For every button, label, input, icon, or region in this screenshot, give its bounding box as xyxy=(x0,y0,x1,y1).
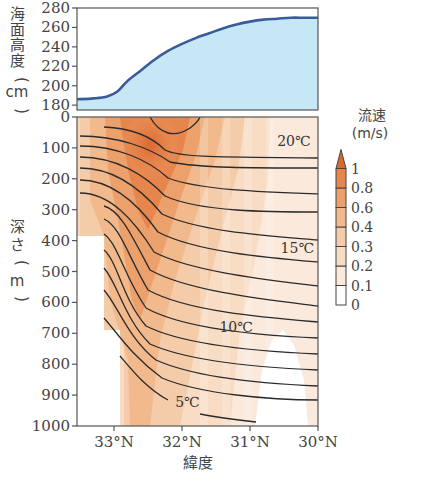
colorbar-segment xyxy=(336,208,346,228)
svg-text:cm: cm xyxy=(6,83,29,101)
colorbar-level-label: 0.3 xyxy=(351,239,373,255)
svg-text:): ) xyxy=(13,296,31,302)
y-tick-label: 260 xyxy=(41,18,70,36)
isotherm-label: 15℃ xyxy=(281,240,314,256)
latitude-axis-title: 緯度 xyxy=(183,454,213,472)
top-y-axis: 180200220240260280 xyxy=(41,0,77,114)
isotherm-label: 5℃ xyxy=(175,394,200,410)
svg-text:): ) xyxy=(13,108,31,114)
kuroshio-figure: 180200220240260280 海面高度(cm) xyxy=(0,0,429,478)
colorbar-level-label: 0.2 xyxy=(351,258,373,274)
svg-text:度: 度 xyxy=(10,52,25,70)
depth-tick-label: 600 xyxy=(41,293,70,311)
colorbar-level-label: 1 xyxy=(351,161,360,177)
colorbar-level-label: 0.4 xyxy=(351,219,373,235)
colorbar-segment xyxy=(336,227,346,247)
y-tick-label: 220 xyxy=(41,57,70,75)
velocity-colorbar: 流速 (m/s) 00.10.20.30.40.60.81 xyxy=(336,107,388,313)
velocity-section-panel: 20℃15℃10℃5℃ 0100200300400500600700800900… xyxy=(10,108,338,472)
depth-tick-label: 500 xyxy=(41,263,70,281)
colorbar-level-label: 0 xyxy=(351,297,360,313)
y-tick-label: 240 xyxy=(41,38,70,56)
svg-text:深: 深 xyxy=(10,218,25,236)
colorbar-segment xyxy=(336,188,346,208)
latitude-tick-label: 32°N xyxy=(162,433,202,451)
depth-tick-label: 800 xyxy=(41,355,70,373)
depth-tick-label: 200 xyxy=(41,170,70,188)
svg-text:(: ( xyxy=(13,260,31,266)
colorbar-level-label: 0.8 xyxy=(351,180,373,196)
depth-axis: 01002003004005006007008009001000 xyxy=(32,108,77,435)
latitude-tick-label: 30°N xyxy=(298,433,338,451)
depth-tick-label: 300 xyxy=(41,201,70,219)
isotherm-label: 20℃ xyxy=(277,133,310,149)
latitude-tick-label: 33°N xyxy=(94,433,134,451)
latitude-tick-label: 31°N xyxy=(230,433,270,451)
depth-tick-label: 900 xyxy=(41,386,70,404)
y-tick-label: 200 xyxy=(41,77,70,95)
colorbar-extend-arrow xyxy=(336,150,346,169)
depth-tick-label: 700 xyxy=(41,324,70,342)
svg-text:m: m xyxy=(10,272,25,290)
depth-axis-title: 深さ(m) xyxy=(10,218,32,302)
colorbar-level-label: 0.1 xyxy=(351,278,373,294)
colorbar-level-label: 0.6 xyxy=(351,200,373,216)
depth-tick-label: 400 xyxy=(41,232,70,250)
y-tick-label: 280 xyxy=(41,0,70,17)
colorbar-unit: (m/s) xyxy=(352,125,389,141)
colorbar-segment xyxy=(336,169,346,189)
sea-surface-height-panel: 180200220240260280 海面高度(cm) xyxy=(6,0,318,114)
colorbar-segment xyxy=(336,247,346,267)
svg-text:さ: さ xyxy=(10,236,25,254)
isotherm-label: 10℃ xyxy=(219,319,252,335)
latitude-axis: 33°N32°N31°N30°N xyxy=(94,426,338,451)
colorbar-segment xyxy=(336,266,346,286)
depth-tick-label: 0 xyxy=(60,108,70,126)
depth-tick-label: 100 xyxy=(41,139,70,157)
velocity-field: 20℃15℃10℃5℃ xyxy=(77,110,318,426)
colorbar-title: 流速 xyxy=(358,107,386,123)
depth-tick-label: 1000 xyxy=(32,417,70,435)
top-y-axis-title: 海面高度(cm) xyxy=(6,5,31,114)
colorbar-segment xyxy=(336,286,346,306)
